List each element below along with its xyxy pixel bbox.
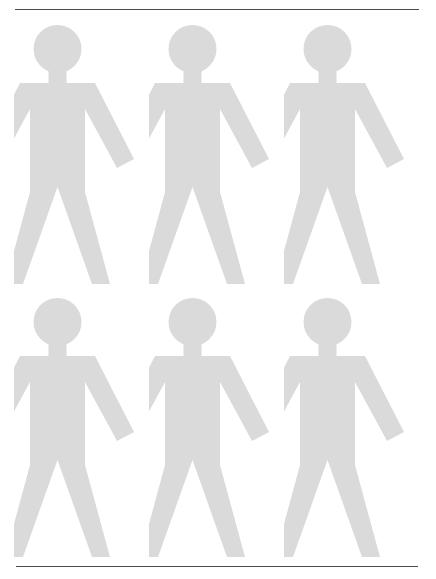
person-figure-5 [149, 297, 284, 562]
person-icon [284, 25, 404, 284]
person-icon [149, 298, 269, 557]
pictogram-page [0, 0, 436, 579]
person-icon [284, 298, 404, 557]
person-figure-3 [284, 24, 419, 289]
person-figure-6 [284, 297, 419, 562]
person-figure-2 [149, 24, 284, 289]
person-icon [14, 298, 134, 557]
person-figure-4 [14, 297, 149, 562]
person-icon [149, 25, 269, 284]
bottom-divider-rule [16, 566, 418, 567]
person-figure-1 [14, 24, 149, 289]
person-pictogram-grid [0, 0, 436, 579]
person-icon [14, 25, 134, 284]
